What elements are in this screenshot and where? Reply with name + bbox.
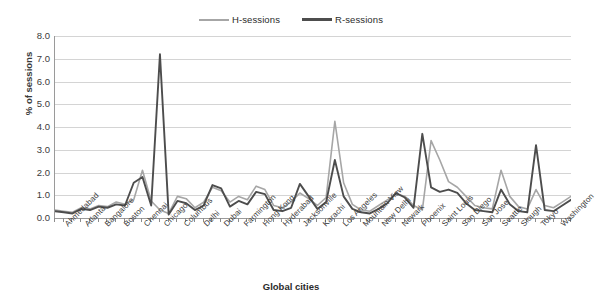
x-axis-title: Global cities <box>0 281 582 292</box>
y-tick-label: 8.0 <box>24 30 50 41</box>
y-tick-label: 6.0 <box>24 76 50 87</box>
plot-area <box>54 36 571 219</box>
legend-swatch-r-sessions <box>302 18 332 21</box>
legend-label-h-sessions: H-sessions <box>232 14 280 25</box>
y-tick-label: 7.0 <box>24 53 50 64</box>
line-r-sessions <box>55 54 571 214</box>
series-canvas <box>55 36 571 218</box>
legend-label-r-sessions: R-sessions <box>335 14 383 25</box>
y-tick-label: 5.0 <box>24 98 50 109</box>
y-tick-label: 2.0 <box>24 167 50 178</box>
y-tick-label: 1.0 <box>24 189 50 200</box>
x-axis-labels: AhmedabadAtlantaBangaloreBostonChennaiCh… <box>0 222 582 278</box>
scan-edge <box>0 0 582 8</box>
legend-item-h-sessions[interactable]: H-sessions <box>199 14 280 25</box>
chart-legend: H-sessions R-sessions <box>0 14 582 25</box>
legend-item-r-sessions[interactable]: R-sessions <box>302 14 383 25</box>
y-tick-label: 4.0 <box>24 121 50 132</box>
y-tick-label: 3.0 <box>24 144 50 155</box>
legend-swatch-h-sessions <box>199 19 229 21</box>
